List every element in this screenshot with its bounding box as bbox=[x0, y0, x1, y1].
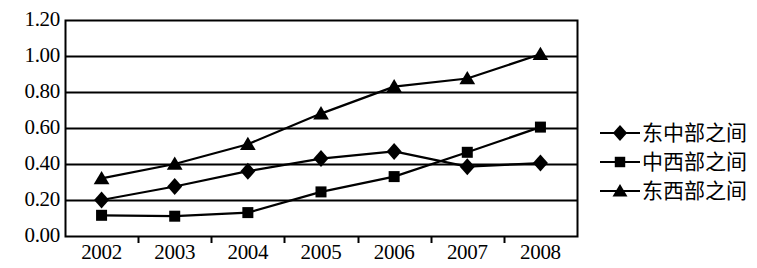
x-axis-tick-label: 2002 bbox=[62, 240, 142, 264]
data-point-marker bbox=[387, 143, 402, 160]
data-point-marker bbox=[316, 186, 327, 197]
data-point-marker bbox=[94, 192, 109, 209]
gridlines bbox=[65, 57, 577, 201]
data-point-marker bbox=[242, 207, 253, 218]
x-axis-tick-label: 2003 bbox=[135, 240, 215, 264]
legend-item-label: 中西部之间 bbox=[642, 151, 747, 173]
data-point-marker bbox=[96, 210, 107, 221]
legend-item-2[interactable]: 中西部之间 bbox=[598, 147, 747, 177]
data-point-marker bbox=[169, 211, 180, 222]
data-point-marker bbox=[313, 106, 329, 119]
legend-item-label: 东西部之间 bbox=[642, 180, 747, 202]
legend-item-label: 东中部之间 bbox=[642, 122, 747, 144]
x-axis: 2002200320042005200620072008 bbox=[65, 240, 577, 268]
data-point-marker bbox=[535, 122, 546, 133]
data-point-marker bbox=[533, 155, 548, 172]
series-1 bbox=[94, 143, 548, 209]
x-axis-tick-label: 2008 bbox=[500, 240, 580, 264]
x-axis-tick-label: 2005 bbox=[281, 240, 361, 264]
x-axis-tick-label: 2006 bbox=[354, 240, 434, 264]
legend-item-3[interactable]: 东西部之间 bbox=[598, 176, 747, 206]
x-axis-tick-label: 2004 bbox=[208, 240, 288, 264]
data-point-marker bbox=[460, 158, 475, 175]
data-point-marker bbox=[533, 47, 549, 60]
data-series-layer bbox=[94, 47, 549, 222]
data-point-marker bbox=[462, 147, 473, 158]
data-point-marker bbox=[167, 178, 182, 195]
square-marker-icon bbox=[598, 151, 642, 173]
x-axis-tick-label: 2007 bbox=[427, 240, 507, 264]
line-chart: 1.201.000.800.600.400.200.00 20022003200… bbox=[0, 0, 757, 268]
chart-legend: 东中部之间中西部之间东西部之间 bbox=[598, 108, 757, 212]
legend-item-1[interactable]: 东中部之间 bbox=[598, 118, 747, 148]
triangle-marker-icon bbox=[598, 180, 642, 202]
diamond-marker-icon bbox=[598, 122, 642, 144]
data-point-marker bbox=[240, 137, 256, 150]
series-2 bbox=[96, 122, 546, 222]
data-point-marker bbox=[389, 171, 400, 182]
